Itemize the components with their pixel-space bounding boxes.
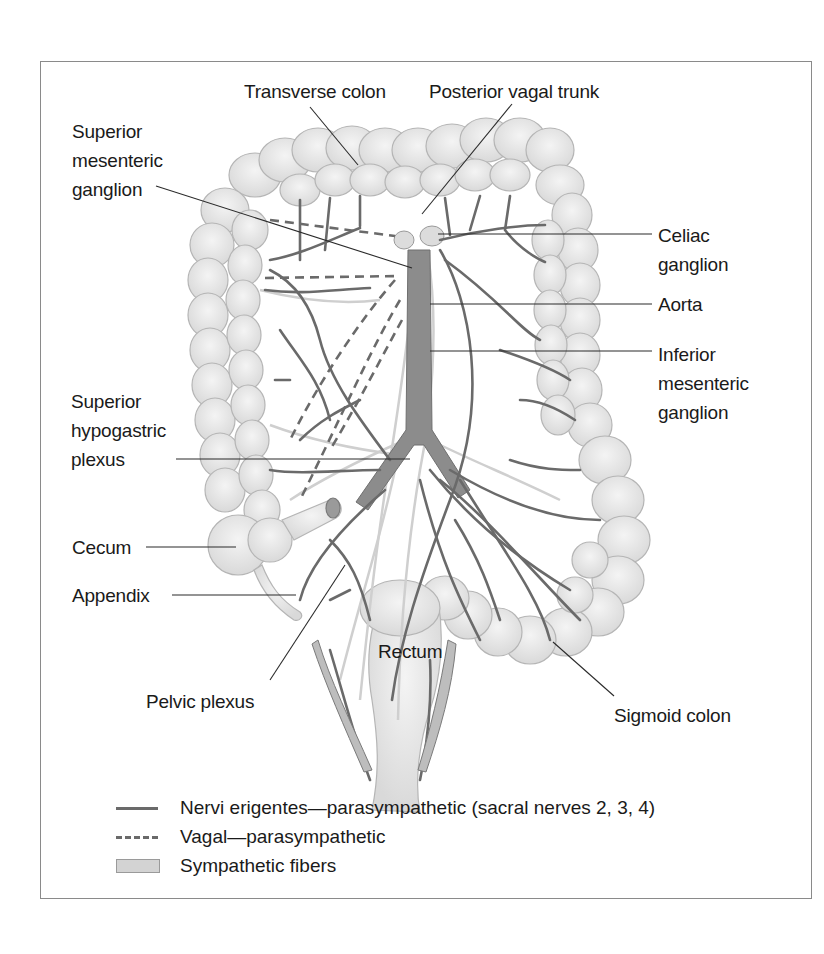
vagal-nerves bbox=[265, 220, 402, 500]
label-rectum: Rectum bbox=[378, 640, 442, 663]
legend-label: Sympathetic fibers bbox=[180, 855, 336, 877]
legend-item-nervi-erigentes: Nervi erigentes—parasympathetic (sacral … bbox=[116, 797, 655, 819]
descending-colon-shape bbox=[532, 193, 612, 447]
label-posterior-vagal-trunk: Posterior vagal trunk bbox=[429, 80, 599, 103]
celiac-ganglion-shape bbox=[420, 226, 444, 246]
label-superior-mesenteric-ganglion: Superior mesenteric ganglion bbox=[72, 117, 163, 204]
legend-label: Vagal—parasympathetic bbox=[180, 826, 386, 848]
label-sigmoid-colon: Sigmoid colon bbox=[614, 704, 731, 727]
label-inferior-mesenteric-ganglion: Inferior mesenteric ganglion bbox=[658, 340, 749, 427]
colon bbox=[188, 118, 650, 812]
label-transverse-colon: Transverse colon bbox=[244, 80, 386, 103]
transverse-colon-shape bbox=[229, 118, 584, 206]
legend-item-vagal: Vagal—parasympathetic bbox=[116, 826, 386, 848]
legend-label: Nervi erigentes—parasympathetic (sacral … bbox=[180, 797, 655, 819]
label-cecum: Cecum bbox=[72, 536, 131, 559]
label-pelvic-plexus: Pelvic plexus bbox=[146, 690, 254, 713]
label-superior-hypogastric-plexus: Superior hypogastric plexus bbox=[71, 387, 166, 474]
label-appendix: Appendix bbox=[72, 584, 150, 607]
appendix-shape bbox=[254, 565, 302, 620]
ascending-colon-shape bbox=[188, 188, 280, 530]
label-aorta: Aorta bbox=[658, 293, 702, 316]
dashed-line-icon bbox=[116, 830, 160, 844]
solid-line-icon bbox=[116, 801, 160, 815]
legend-item-sympathetic: Sympathetic fibers bbox=[116, 855, 336, 877]
filled-box-icon bbox=[116, 859, 160, 873]
label-celiac-ganglion: Celiac ganglion bbox=[658, 221, 728, 279]
